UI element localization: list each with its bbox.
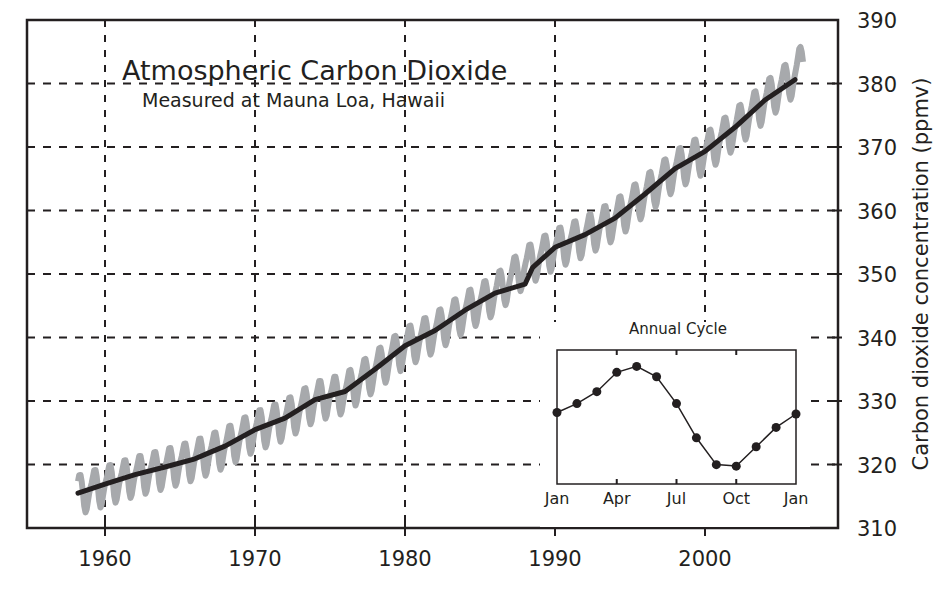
inset-data-point (572, 399, 581, 408)
y-axis-ticks: 310320330340350360370380390 (832, 9, 897, 541)
co2-chart: 19601970198019902000 3103203303403503603… (0, 0, 950, 596)
x-axis-ticks: 19601970198019902000 (78, 522, 731, 571)
inset-data-point (792, 410, 801, 419)
y-tick-label: 320 (857, 454, 897, 478)
annual-cycle-inset: Annual Cycle JanAprJulOctJan (540, 320, 810, 527)
x-tick-label: 1960 (78, 547, 131, 571)
inset-data-point (592, 387, 601, 396)
y-tick-label: 340 (857, 327, 897, 351)
y-tick-label: 390 (857, 9, 897, 33)
x-tick-label: 1970 (228, 547, 281, 571)
inset-data-point (632, 362, 641, 371)
inset-data-point (772, 423, 781, 432)
inset-title: Annual Cycle (629, 320, 727, 338)
inset-x-tick-label: Apr (603, 489, 631, 508)
x-tick-label: 1980 (378, 547, 431, 571)
inset-data-point (652, 372, 661, 381)
inset-data-point (553, 408, 562, 417)
x-tick-label: 1990 (528, 547, 581, 571)
y-tick-label: 350 (857, 263, 897, 287)
inset-data-point (752, 442, 761, 451)
x-tick-label: 2000 (678, 547, 731, 571)
inset-x-tick-label: Jan (783, 489, 809, 508)
chart-title: Atmospheric Carbon Dioxide (122, 55, 507, 86)
inset-data-point (612, 368, 621, 377)
y-tick-label: 380 (857, 73, 897, 97)
y-tick-label: 310 (857, 517, 897, 541)
inset-data-point (732, 462, 741, 471)
y-tick-label: 360 (857, 200, 897, 224)
inset-x-tick-label: Jul (666, 489, 686, 508)
inset-data-point (692, 433, 701, 442)
inset-data-point (712, 460, 721, 469)
y-tick-label: 330 (857, 390, 897, 414)
y-tick-label: 370 (857, 136, 897, 160)
y-axis-label: Carbon dioxide concentration (ppmv) (909, 78, 933, 471)
inset-data-point (672, 399, 681, 408)
inset-x-tick-label: Oct (722, 489, 750, 508)
inset-x-tick-label: Jan (544, 489, 570, 508)
chart-subtitle: Measured at Mauna Loa, Hawaii (142, 89, 445, 111)
